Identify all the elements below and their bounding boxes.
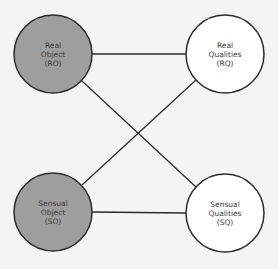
label-sensual-qualities: Sensual Qualities (SQ) [190,200,260,227]
label-line: Real [190,41,260,50]
label-line: (SQ) [190,218,260,227]
label-real-qualities: Real Qualities (RQ) [190,41,260,68]
label-line: Real [18,41,88,50]
label-line: Object [18,208,88,217]
edge-so-sq [92,212,186,213]
label-line: Sensual [190,200,260,209]
label-line: (RQ) [190,59,260,68]
label-line: Qualities [190,209,260,218]
label-real-object: Real Object (RO) [18,41,88,68]
label-line: (SO) [18,217,88,226]
label-line: Qualities [190,50,260,59]
label-line: (RO) [18,59,88,68]
edge-so-rq [82,80,196,185]
label-sensual-object: Sensual Object (SO) [18,199,88,226]
label-line: Sensual [18,199,88,208]
label-line: Object [18,50,88,59]
edge-ro-sq [82,81,196,187]
